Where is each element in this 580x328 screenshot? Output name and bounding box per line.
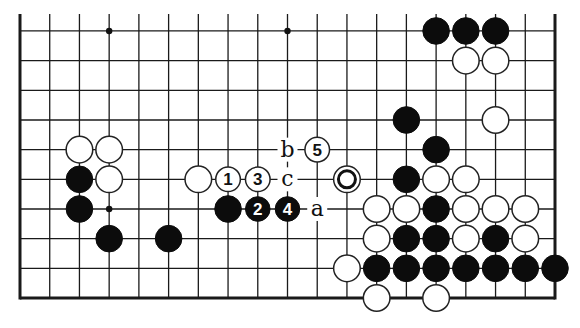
black-stone-icon bbox=[393, 225, 420, 252]
black-stone-icon bbox=[423, 225, 450, 252]
black-stone-icon bbox=[482, 255, 509, 282]
star-point-icon bbox=[106, 206, 112, 212]
move-number: 5 bbox=[312, 141, 321, 160]
move-number: 2 bbox=[253, 200, 262, 219]
move-number: 4 bbox=[283, 200, 293, 219]
white-stone-icon bbox=[185, 166, 212, 193]
white-stone-icon bbox=[393, 196, 420, 223]
go-board-diagram: 12345abc bbox=[0, 0, 580, 328]
point-label: c bbox=[281, 166, 293, 191]
white-stone-icon bbox=[453, 47, 480, 74]
white-stone-icon bbox=[482, 196, 509, 223]
black-stone-icon bbox=[155, 225, 182, 252]
black-stone-icon bbox=[363, 255, 390, 282]
star-point-icon bbox=[106, 28, 112, 34]
black-stone-icon bbox=[96, 225, 123, 252]
white-stone-icon bbox=[482, 107, 509, 134]
white-stone-icon bbox=[363, 196, 390, 223]
black-stone-icon bbox=[393, 166, 420, 193]
white-stone-icon bbox=[363, 285, 390, 312]
black-stone-icon bbox=[423, 18, 450, 45]
white-stone-icon bbox=[423, 285, 450, 312]
black-stone-icon bbox=[393, 255, 420, 282]
black-stone-icon bbox=[215, 196, 242, 223]
black-stone-icon bbox=[512, 255, 539, 282]
black-stone-icon bbox=[66, 166, 93, 193]
star-point-icon bbox=[284, 28, 290, 34]
white-stone-icon bbox=[453, 196, 480, 223]
point-label: b bbox=[280, 137, 294, 162]
white-stone-icon bbox=[423, 166, 450, 193]
white-stone-icon bbox=[363, 225, 390, 252]
black-stone-icon bbox=[423, 136, 450, 163]
black-stone-icon bbox=[66, 196, 93, 223]
black-stone-icon bbox=[393, 107, 420, 134]
white-stone-icon bbox=[96, 166, 123, 193]
black-stone-icon bbox=[423, 255, 450, 282]
black-stone-icon bbox=[453, 255, 480, 282]
white-stone-icon bbox=[334, 255, 361, 282]
black-stone-icon bbox=[542, 255, 569, 282]
move-number: 1 bbox=[223, 170, 232, 189]
black-stone-icon bbox=[482, 225, 509, 252]
black-stone-icon bbox=[423, 196, 450, 223]
white-stone-icon bbox=[96, 136, 123, 163]
move-number: 3 bbox=[253, 170, 262, 189]
black-stone-icon bbox=[482, 18, 509, 45]
black-stone-icon bbox=[453, 18, 480, 45]
white-stone-icon bbox=[453, 225, 480, 252]
white-stone-icon bbox=[512, 196, 539, 223]
point-label: a bbox=[311, 196, 324, 221]
white-stone-icon bbox=[482, 47, 509, 74]
white-stone-icon bbox=[66, 136, 93, 163]
white-stone-icon bbox=[512, 225, 539, 252]
white-stone-icon bbox=[453, 166, 480, 193]
